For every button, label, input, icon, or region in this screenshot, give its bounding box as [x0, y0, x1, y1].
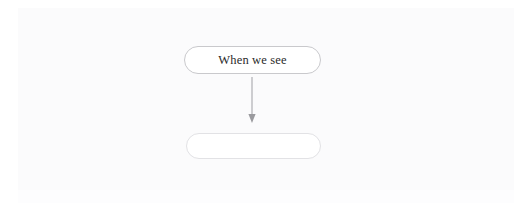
diagram-canvas: When we see [0, 0, 528, 203]
flowchart-node-top-label: When we see [218, 54, 286, 67]
arrow-down-icon [232, 72, 272, 128]
diagram-surface-footer [18, 190, 514, 203]
flowchart-node-top[interactable]: When we see [184, 46, 321, 74]
flowchart-node-bottom[interactable] [186, 133, 321, 159]
flowchart-connector-arrow[interactable] [232, 72, 272, 128]
arrow-head [248, 114, 255, 123]
